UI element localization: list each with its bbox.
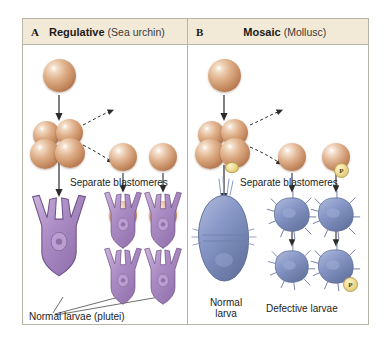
- defective-larva-2: [311, 191, 359, 239]
- trochophore-larva-normal: [192, 177, 256, 281]
- panel-b-body: P Separate blastomeres: [188, 45, 368, 324]
- pluteus-larva-normal: [33, 195, 86, 276]
- pluteus-larva-1: [105, 192, 142, 248]
- panel-a-subtitle: (Sea urchin): [108, 26, 165, 38]
- polar-lobe-defective-larva[interactable]: P: [343, 277, 358, 292]
- normal-larvae-label-a: Normal larvae (plutei): [29, 311, 125, 322]
- panel-b-mosaic: B Mosaic (Mollusc): [188, 19, 368, 324]
- panel-a-larvae: [23, 45, 188, 324]
- panel-a-regulative: A Regulative (Sea urchin): [23, 19, 188, 324]
- defective-larva-3: [269, 245, 315, 290]
- pluteus-larva-2: [145, 192, 182, 248]
- defective-larva-1: [267, 191, 315, 239]
- panel-a-header: A Regulative (Sea urchin): [23, 19, 187, 45]
- panel-a-body: Separate blastomeres: [23, 45, 187, 324]
- panel-a-letter: A: [31, 26, 39, 38]
- panel-b-title: Mosaic: [243, 26, 280, 38]
- defective-larvae-label: Defective larvae: [266, 303, 338, 314]
- panel-b-subtitle: (Mollusc): [284, 26, 327, 38]
- panel-a-title: Regulative: [49, 26, 105, 38]
- pluteus-larva-3: [105, 248, 142, 304]
- panel-b-header: B Mosaic (Mollusc): [188, 19, 368, 45]
- pluteus-larva-4: [145, 248, 182, 304]
- figure-container: A Regulative (Sea urchin): [22, 18, 369, 325]
- panel-b-letter: B: [196, 26, 203, 38]
- normal-larva-label-b: Normallarva: [200, 297, 252, 319]
- panel-b-larvae: [188, 45, 368, 324]
